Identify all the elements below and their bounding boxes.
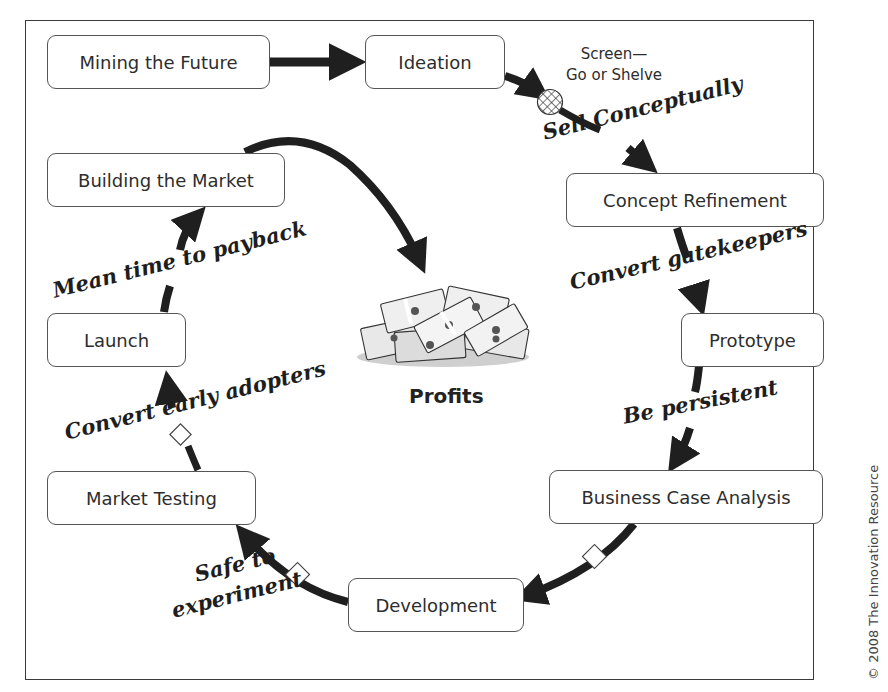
stage-building-the-market: Building the Market [47, 153, 285, 207]
money-pile-icon [357, 286, 529, 367]
copyright-notice: © 2008 The Innovation Resource [866, 465, 881, 680]
stage-label: Ideation [398, 52, 471, 73]
checkpoint-diamond-icon [170, 424, 191, 445]
stage-label: Mining the Future [79, 52, 237, 73]
stage-label: Building the Market [78, 170, 254, 191]
stage-ideation: Ideation [365, 35, 505, 89]
stage-business-case-analysis: Business Case Analysis [549, 470, 823, 524]
screen-gate-note: Screen— Go or Shelve [558, 44, 670, 86]
arrow-ideation-to-gate [505, 76, 540, 93]
stage-launch: Launch [47, 313, 186, 367]
stage-label: Development [375, 595, 496, 616]
stage-label: Business Case Analysis [581, 487, 790, 508]
stage-label: Launch [84, 330, 149, 351]
gate-line-1: Screen— [558, 44, 670, 65]
stage-prototype: Prototype [681, 313, 824, 367]
profits-label: Profits [409, 384, 484, 408]
stage-development: Development [348, 578, 524, 632]
gate-line-2: Go or Shelve [558, 65, 670, 86]
stage-label: Market Testing [86, 488, 217, 509]
screen-gate-icon [538, 90, 563, 115]
stage-label: Concept Refinement [603, 190, 787, 211]
stage-label: Prototype [709, 330, 796, 351]
arrow-business-to-development [525, 524, 634, 596]
stage-mining-the-future: Mining the Future [47, 35, 270, 89]
stage-market-testing: Market Testing [47, 471, 256, 525]
